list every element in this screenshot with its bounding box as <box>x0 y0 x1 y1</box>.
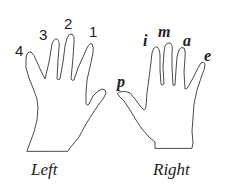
left-hand: 4 3 2 1 Left <box>15 15 106 179</box>
left-finger-label-3: 3 <box>39 26 47 43</box>
left-hand-outline <box>26 34 106 151</box>
left-finger-label-4: 4 <box>15 42 23 59</box>
right-hand-caption: Right <box>152 160 191 179</box>
right-finger-label-a: a <box>183 32 191 49</box>
left-finger-label-1: 1 <box>89 23 97 40</box>
right-hand: p i m a e Right <box>115 23 211 179</box>
left-hand-caption: Left <box>30 160 59 179</box>
right-finger-label-m: m <box>158 23 170 40</box>
right-finger-label-i: i <box>143 32 148 49</box>
right-finger-label-e: e <box>204 47 211 64</box>
right-hand-outline <box>118 43 206 148</box>
hand-fingering-diagram: 4 3 2 1 Left p i m a e Right <box>0 0 227 190</box>
left-finger-label-2: 2 <box>64 15 72 32</box>
right-finger-label-p: p <box>115 73 125 91</box>
